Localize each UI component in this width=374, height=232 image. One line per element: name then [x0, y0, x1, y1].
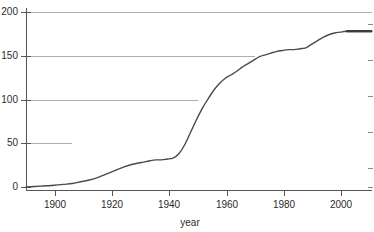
- x-tick-label-1900: 1900: [44, 199, 67, 210]
- x-tick-label-2000: 2000: [330, 199, 353, 210]
- line-chart: 200 150 100 50 0 1900 1920 1940 1960 198…: [0, 0, 374, 232]
- chart-background: [0, 0, 374, 232]
- y-tick-label-100: 100: [1, 94, 18, 105]
- x-tick-label-1920: 1920: [101, 199, 124, 210]
- y-tick-label-0: 0: [12, 181, 18, 192]
- x-tick-label-1980: 1980: [273, 199, 296, 210]
- y-tick-label-200: 200: [1, 6, 18, 17]
- y-tick-label-50: 50: [7, 137, 19, 148]
- x-axis-title: year: [180, 217, 200, 228]
- x-tick-label-1940: 1940: [158, 199, 181, 210]
- y-tick-label-150: 150: [1, 50, 18, 61]
- x-tick-label-1960: 1960: [216, 199, 239, 210]
- chart-container: 200 150 100 50 0 1900 1920 1940 1960 198…: [0, 0, 374, 232]
